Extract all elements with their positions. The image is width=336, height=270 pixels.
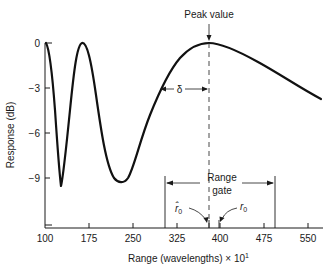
x-tick-label: 250 xyxy=(125,233,142,244)
chart-figure: 0 −3 −6 −9 100 175 250 325 400 475 550 R… xyxy=(0,0,336,270)
y-tick-label: −6 xyxy=(29,128,41,139)
x-axis-label: Range (wavelengths) × 101 xyxy=(128,252,249,264)
peak-value-label: Peak value xyxy=(184,9,234,20)
arrow-icon xyxy=(220,217,225,223)
r0-label: r0 xyxy=(240,201,247,213)
y-tick-label: 0 xyxy=(34,38,40,49)
arrow-left-icon xyxy=(166,181,173,186)
y-tick-label: −9 xyxy=(29,173,41,184)
arrow-down-icon xyxy=(207,35,212,41)
x-tick-label: 325 xyxy=(169,233,186,244)
arrow-right-icon xyxy=(202,87,208,92)
arrow-right-icon xyxy=(267,181,274,186)
x-tick-label: 100 xyxy=(37,233,54,244)
y-axis-label: Response (dB) xyxy=(5,102,16,169)
range-gate-label-line1: Range xyxy=(207,172,237,183)
r0-hat-label: r̂0 xyxy=(175,201,182,215)
response-curve xyxy=(46,43,321,186)
r0-annotation: r0 xyxy=(219,201,247,228)
y-tick-label: −3 xyxy=(29,83,41,94)
x-tick-label: 175 xyxy=(81,233,98,244)
delta-label: δ xyxy=(177,84,183,95)
x-tick-label: 550 xyxy=(300,233,317,244)
delta-annotation: δ xyxy=(160,84,208,95)
x-tick-label: 475 xyxy=(256,233,273,244)
x-tick-label: 400 xyxy=(212,233,229,244)
range-gate-label-line2: gate xyxy=(212,185,232,196)
arrow-icon xyxy=(204,217,209,223)
r0-hat-annotation: r̂0 xyxy=(175,201,209,228)
